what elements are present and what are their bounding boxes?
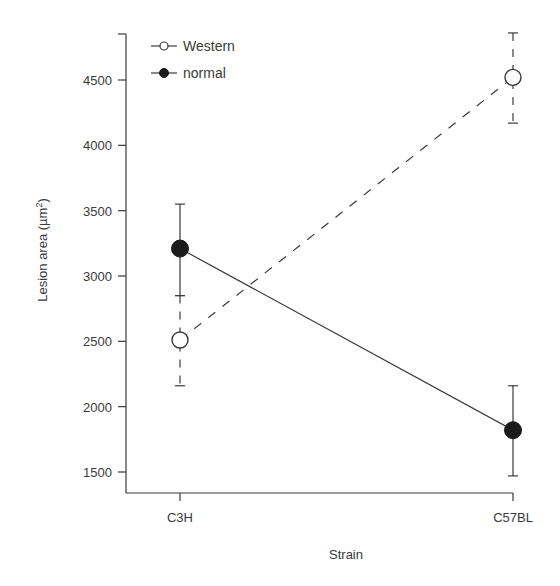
open-circle-marker: [172, 332, 188, 348]
y-tick-label: 3000: [83, 269, 112, 284]
legend-label-western: Western: [183, 38, 235, 54]
plot-area: [172, 33, 522, 476]
legend-label-normal: normal: [183, 65, 226, 81]
x-tick-label: C57BL: [493, 510, 533, 525]
x-axis-title: Strain: [329, 547, 363, 562]
x-tick-label: C3H: [167, 510, 193, 525]
y-tick-label: 4000: [83, 138, 112, 153]
filled-circle-icon: [160, 69, 169, 78]
filled-circle-marker: [505, 422, 522, 439]
y-tick-label: 3500: [83, 204, 112, 219]
y-tick-label: 1500: [83, 465, 112, 480]
y-tick-label: 4500: [83, 73, 112, 88]
series-western: [172, 33, 521, 386]
y-axis-title: Lesion area (µm2): [34, 198, 50, 302]
y-axis: [118, 34, 126, 493]
open-circle-icon: [160, 42, 168, 50]
y-ticks: 1500200025003000350040004500: [83, 73, 126, 480]
filled-circle-marker: [172, 240, 189, 257]
legend-item-western: Western: [151, 38, 235, 54]
series-normal: [172, 204, 522, 476]
legend-item-normal: normal: [151, 65, 226, 81]
x-ticks: C3HC57BL: [167, 493, 533, 525]
y-tick-label: 2500: [83, 334, 112, 349]
chart-canvas: 1500200025003000350040004500 C3HC57BL Le…: [0, 0, 560, 586]
open-circle-marker: [505, 69, 521, 85]
legend: Western normal: [151, 38, 235, 81]
y-tick-label: 2000: [83, 400, 112, 415]
